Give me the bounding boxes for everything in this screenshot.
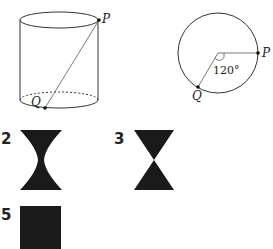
cylinder-top-ellipse [20, 12, 98, 28]
curved-hourglass-shape [20, 130, 62, 190]
option-3-number: 3 [114, 130, 124, 148]
cylinder-diagonal-pq [45, 20, 99, 108]
diagram-canvas: P Q P Q 120° 2 3 5 [0, 0, 273, 249]
option-5-number: 5 [1, 206, 11, 224]
angle-label: 120° [213, 64, 240, 77]
cylinder-point-q [43, 106, 47, 110]
circle-label-p: P [261, 46, 271, 60]
cylinder-label-q: Q [31, 95, 41, 109]
angle-arc-icon [215, 53, 224, 60]
triangle-hourglass-shape [134, 130, 174, 190]
cylinder-point-p [97, 18, 101, 22]
option-5: 5 [1, 206, 61, 249]
square-shape [20, 206, 61, 249]
cylinder-label-p: P [101, 12, 111, 26]
circle-point-p [256, 51, 260, 55]
option-2-number: 2 [1, 130, 11, 148]
option-3: 3 [114, 130, 174, 190]
circle-figure: P Q 120° [178, 13, 271, 103]
option-2: 2 [1, 130, 62, 190]
cylinder-figure: P Q [20, 12, 111, 110]
circle-label-q: Q [192, 89, 202, 103]
